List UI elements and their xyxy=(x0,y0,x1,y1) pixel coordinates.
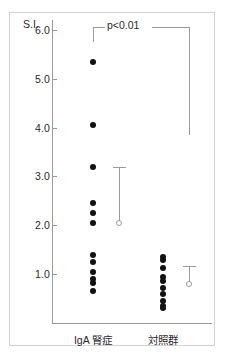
y-tick-mark xyxy=(52,79,57,80)
data-point xyxy=(90,164,96,170)
y-tick-mark xyxy=(52,30,57,31)
data-point xyxy=(160,305,166,311)
y-tick-mark xyxy=(52,274,57,275)
data-point xyxy=(90,280,96,286)
y-tick-label-wrap: 3.0 xyxy=(14,170,50,182)
y-tick-label-wrap: 6.0 xyxy=(14,24,50,36)
data-point xyxy=(90,59,96,65)
mean-marker xyxy=(186,281,192,287)
data-point xyxy=(90,259,96,265)
x-axis-spine xyxy=(52,323,212,324)
y-tick-label-wrap: 2.0 xyxy=(14,219,50,231)
plot-area: S.I. 6.05.04.03.02.01.0 p<0.01 IgA 腎症対照群 xyxy=(0,0,227,360)
y-tick-label: 2.0 xyxy=(18,219,50,231)
x-axis-group-label: IgA 腎症 xyxy=(74,332,112,347)
figure-container: S.I. 6.05.04.03.02.01.0 p<0.01 IgA 腎症対照群 xyxy=(0,0,227,360)
y-axis-spine xyxy=(52,20,53,324)
significance-label: p<0.01 xyxy=(107,19,139,31)
x-axis-group-label: 対照群 xyxy=(148,332,178,347)
y-tick-label-wrap: 4.0 xyxy=(14,122,50,134)
significance-arm-left xyxy=(93,27,94,42)
y-tick-mark xyxy=(52,225,57,226)
significance-line-left xyxy=(93,27,105,28)
data-point xyxy=(90,269,96,275)
data-point xyxy=(160,265,166,271)
data-point xyxy=(90,252,96,258)
data-point xyxy=(90,122,96,128)
y-tick-label: 4.0 xyxy=(18,122,50,134)
significance-line-right xyxy=(152,27,189,28)
y-tick-mark xyxy=(52,176,57,177)
y-tick-label: 3.0 xyxy=(18,170,50,182)
data-point xyxy=(90,288,96,294)
y-tick-label-wrap: 1.0 xyxy=(14,268,50,280)
data-point xyxy=(90,220,96,226)
data-point xyxy=(160,285,166,291)
y-tick-label: 1.0 xyxy=(18,268,50,280)
y-tick-mark xyxy=(52,128,57,129)
data-point xyxy=(160,257,166,263)
y-tick-label: 5.0 xyxy=(18,73,50,85)
data-point xyxy=(90,200,96,206)
y-tick-label: 6.0 xyxy=(18,24,50,36)
error-bar-stem xyxy=(119,167,120,223)
data-point xyxy=(160,291,166,297)
error-bar-cap xyxy=(183,266,196,267)
data-point xyxy=(160,278,166,284)
significance-arm-right xyxy=(189,27,190,135)
data-point xyxy=(90,210,96,216)
y-tick-label-wrap: 5.0 xyxy=(14,73,50,85)
error-bar-cap xyxy=(113,167,126,168)
mean-marker xyxy=(116,220,122,226)
